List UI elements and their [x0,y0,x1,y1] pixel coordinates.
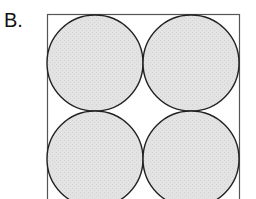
shaded-circle-2 [143,15,239,111]
shaded-circle-1 [47,15,143,111]
circles-in-square-diagram [0,0,256,199]
shaded-circle-3 [47,111,143,199]
shaded-circle-4 [143,111,239,199]
